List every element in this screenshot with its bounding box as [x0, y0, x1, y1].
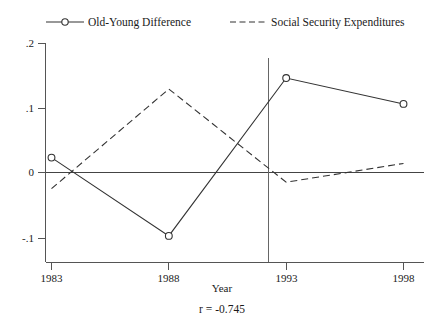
legend-entry-social-security-expenditures: Social Security Expenditures	[230, 16, 405, 29]
data-point-marker	[165, 233, 172, 240]
x-tick-label-1993: 1993	[276, 272, 299, 284]
data-point-marker	[283, 75, 290, 82]
x-tick-label-1988: 1988	[158, 272, 181, 284]
x-axis-title: Year	[212, 282, 233, 294]
series-old-young-difference	[48, 75, 407, 240]
data-point-marker	[400, 101, 407, 108]
correlation-annotation: r = -0.745	[199, 303, 245, 315]
legend-marker-circle	[62, 19, 68, 25]
data-point-marker	[48, 154, 55, 161]
series-line-dashed	[52, 89, 404, 189]
chart-container: Old-Young Difference Social Security Exp…	[0, 0, 428, 325]
y-tick-label--0.1: -.1	[22, 232, 34, 244]
series-line-solid	[52, 78, 404, 236]
legend-label-0: Old-Young Difference	[88, 16, 191, 29]
y-tick-label-0: 0	[29, 166, 35, 178]
y-tick-label-0.2: .2	[26, 37, 34, 49]
legend-label-1: Social Security Expenditures	[271, 16, 405, 29]
x-tick-label-1983: 1983	[41, 272, 64, 284]
y-tick-label-0.1: .1	[26, 102, 34, 114]
x-tick-label-1998: 1998	[393, 272, 416, 284]
line-chart: Old-Young Difference Social Security Exp…	[0, 0, 428, 325]
chart-axes	[38, 43, 424, 270]
y-tick-labels: .2 .1 0 -.1	[22, 37, 34, 244]
legend-entry-old-young-difference: Old-Young Difference	[46, 16, 191, 29]
series-social-security-expenditures	[52, 89, 404, 189]
chart-legend: Old-Young Difference Social Security Exp…	[46, 16, 405, 29]
